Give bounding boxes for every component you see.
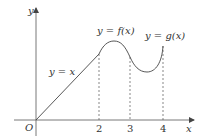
line-y-equals-x <box>36 54 99 120</box>
y-axis-label: y <box>27 5 34 16</box>
origin-label: O <box>25 122 33 133</box>
curve-f <box>99 41 130 57</box>
tick-label-3: 3 <box>127 123 133 134</box>
tick-label-4: 4 <box>160 123 166 134</box>
label-y-equals-x: y = x <box>48 66 75 77</box>
label-g: y = g(x) <box>144 30 185 41</box>
function-graph: y x O 2 3 4 y = x y = f(x) y = g(x) <box>0 0 200 140</box>
curve-g <box>130 46 163 72</box>
x-axis-label: x <box>186 123 192 134</box>
label-f: y = f(x) <box>96 25 135 36</box>
tick-label-2: 2 <box>96 123 102 134</box>
